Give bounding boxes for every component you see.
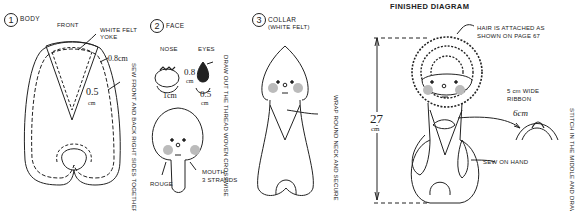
- label-white-felt: WHITE FELT: [100, 27, 137, 34]
- label-mouth: MOUTH,: [202, 169, 227, 176]
- step-number-3: 3: [252, 13, 266, 27]
- seam-allowance-outer: 0.8cm: [108, 55, 128, 63]
- label-rouge: ROUGE: [150, 181, 173, 188]
- label-eyes: EYES: [198, 46, 215, 53]
- label-mouth-strands: 3 STRANDS: [202, 177, 237, 184]
- eye-width: 0.5: [200, 90, 211, 99]
- eye-height: 0.8: [184, 68, 195, 77]
- label-nose: NOSE: [160, 46, 178, 53]
- step-number-2: 2: [150, 19, 164, 33]
- note-wrap-neck: WRAP ROUND NECK AND SECURE: [332, 95, 339, 175]
- finished-doll: [374, 25, 558, 203]
- finished-diagram-title: FINISHED DIAGRAM: [390, 2, 469, 11]
- note-stitch-middle: STITCH IN THE MIDDLE AND DRAW: [568, 108, 575, 208]
- label-white-felt-collar: (WHITE FELT): [268, 24, 310, 31]
- eye-height-unit: cm: [186, 78, 193, 84]
- nose-size: 1cm: [163, 92, 177, 100]
- note-ribbon: RIBBON: [507, 96, 531, 103]
- step-title-body: BODY: [20, 15, 40, 22]
- height-measurement: 27: [370, 112, 383, 125]
- label-front: FRONT: [57, 22, 79, 29]
- body-pattern: [24, 34, 120, 185]
- note-sew-hand: SEW ON HAND: [483, 159, 528, 166]
- note-draw-thread: DRAW OUT THE THREAD WOVEN CROSSWISE: [222, 55, 229, 135]
- label-yoke: YOKE: [100, 34, 117, 41]
- eye-width-unit: cm: [201, 100, 208, 106]
- note-sew-front-back: SEW FRONT AND BACK RIGHT SIDES TOGETHER: [130, 63, 137, 168]
- collar-doll: [258, 46, 318, 196]
- step-title-collar: COLLAR: [268, 16, 296, 23]
- step-number-1: 1: [4, 13, 18, 27]
- note-hair-page: SHOWN ON PAGE 67: [477, 33, 540, 40]
- ribbon-length: 6cm: [513, 109, 528, 118]
- note-ribbon-width: 5 cm WIDE: [507, 88, 539, 95]
- note-hair: HAIR IS ATTACHED AS: [477, 25, 545, 32]
- seam-allowance-inner: 0.5: [86, 87, 99, 97]
- step-title-face: FACE: [166, 22, 185, 29]
- seam-allowance-inner-unit: cm: [88, 100, 95, 106]
- height-measurement-unit: cm: [371, 126, 380, 133]
